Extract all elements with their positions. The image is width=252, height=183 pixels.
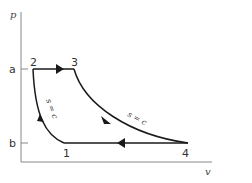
- point-2-label: 2: [30, 56, 37, 69]
- x-axis-label: v: [205, 166, 211, 177]
- point-3-label: 3: [71, 56, 78, 69]
- tick-a-label: a: [9, 63, 16, 76]
- arrow-3-4-icon: [101, 116, 111, 124]
- process-3-4-label: s = c: [126, 110, 149, 128]
- y-axis-label: p: [10, 9, 17, 20]
- point-1-label: 1: [63, 147, 70, 160]
- arrow-1-2-icon: [37, 114, 44, 122]
- point-4-label: 4: [182, 147, 189, 160]
- process-1-2-label: s = c: [44, 98, 60, 121]
- pv-diagram: p v a b 2 3 1 4 s = c s = c: [0, 0, 252, 183]
- tick-b-label: b: [9, 137, 16, 150]
- arrow-4-1-icon: [117, 138, 125, 148]
- arrow-2-3-icon: [56, 64, 64, 74]
- process-3-4: [74, 69, 188, 143]
